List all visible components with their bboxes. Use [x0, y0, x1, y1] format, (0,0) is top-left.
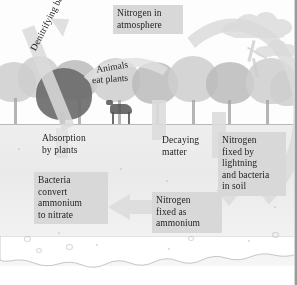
label-absorption-by-plants: Absorption by plants [38, 130, 116, 159]
label-nitrogen-fixed-as-ammonium: Nitrogen fixed as ammonium [152, 192, 222, 233]
label-decaying-matter: Decaying matter [158, 132, 222, 161]
nitrogen-cycle-figure: Nitrogen in atmosphere Denitrifying bact… [0, 0, 297, 285]
arrow-ammonium-to-bacteria-head [108, 194, 130, 220]
label-nitrogen-in-atmosphere: Nitrogen in atmosphere [113, 5, 183, 34]
tree-trunk [14, 98, 17, 124]
page-edge-line [295, 0, 297, 285]
label-nitrogen-fixed-by-lightning: Nitrogen fixed by lightning and bacteria… [218, 132, 286, 196]
soil-bottom-edge [0, 236, 297, 282]
label-bacteria-convert-ammonium-to-nitrate: Bacteria convert ammonium to nitrate [34, 172, 108, 224]
